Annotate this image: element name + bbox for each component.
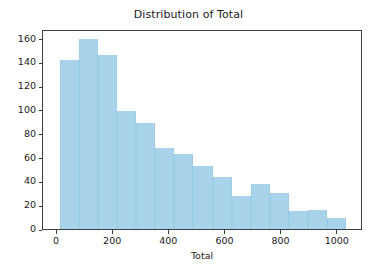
x-tick-label: 200 <box>92 235 132 246</box>
x-tick-mark <box>224 230 225 234</box>
y-tick-label: 60 <box>24 152 36 163</box>
x-tick-mark <box>56 230 57 234</box>
histogram-bar <box>60 60 79 229</box>
y-tick-label: 100 <box>18 104 36 115</box>
histogram-bar <box>232 196 251 229</box>
x-tick-mark <box>168 230 169 234</box>
x-axis-label: Total <box>42 250 362 261</box>
plot-area <box>42 30 362 230</box>
x-tick-label: 600 <box>204 235 244 246</box>
x-tick-label: 0 <box>36 235 76 246</box>
histogram-bars <box>43 31 361 229</box>
histogram-bar <box>308 210 327 229</box>
y-axis-ticks: 020406080100120140160 <box>0 30 42 230</box>
chart-title: Distribution of Total <box>0 8 377 21</box>
histogram-bar <box>117 111 136 229</box>
x-tick-label: 800 <box>261 235 301 246</box>
histogram-bar <box>270 193 289 229</box>
histogram-bar <box>98 55 117 229</box>
y-tick-label: 80 <box>24 128 36 139</box>
histogram-bar <box>289 211 308 229</box>
x-tick-mark <box>280 230 281 234</box>
y-tick-label: 120 <box>18 80 36 91</box>
x-tick-label: 1000 <box>317 235 357 246</box>
histogram-bar <box>251 184 270 229</box>
y-tick-label: 20 <box>24 199 36 210</box>
histogram-bar <box>193 166 212 229</box>
x-tick-mark <box>112 230 113 234</box>
y-tick-label: 40 <box>24 175 36 186</box>
y-tick-label: 160 <box>18 33 36 44</box>
x-tick-label: 400 <box>148 235 188 246</box>
histogram-bar <box>213 177 232 229</box>
y-tick-label: 140 <box>18 56 36 67</box>
x-tick-mark <box>336 230 337 234</box>
histogram-bar <box>327 218 346 229</box>
figure-canvas: Distribution of Total 020406080100120140… <box>0 0 377 275</box>
histogram-bar <box>155 148 174 229</box>
y-tick-label: 0 <box>30 223 36 234</box>
histogram-bar <box>79 39 98 229</box>
histogram-bar <box>136 123 155 229</box>
histogram-bar <box>174 154 193 229</box>
